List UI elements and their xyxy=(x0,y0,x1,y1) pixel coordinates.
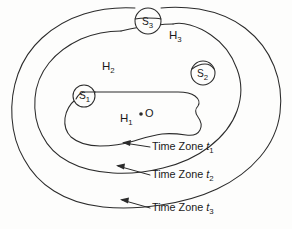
region-label-h3-sub: 3 xyxy=(177,35,181,44)
annotation-prefix-t2: Time Zone xyxy=(152,168,206,180)
annotation-label-t3: Time Zone t3 xyxy=(152,201,214,216)
region-label-h1-base: H xyxy=(120,112,128,124)
region-label-h1: H1 xyxy=(120,112,133,127)
region-label-h2: H2 xyxy=(102,60,115,75)
region-label-h2-base: H xyxy=(102,60,110,72)
center-point-dot xyxy=(139,112,143,116)
annotation-sub-t2: 2 xyxy=(209,174,213,183)
annotation-label-t2: Time Zone t2 xyxy=(152,168,214,183)
arrow-head-t3 xyxy=(120,198,129,204)
diagram-canvas: H1 H2 H3 S1 S2 S3 O Time Zone t1 Time Zo… xyxy=(0,0,292,229)
time-zone-diagram: H1 H2 H3 S1 S2 S3 O Time Zone t1 Time Zo… xyxy=(0,0,292,229)
annotation-prefix-t3: Time Zone xyxy=(152,201,206,213)
annotation-label-t1: Time Zone t1 xyxy=(152,140,214,155)
center-point-label: O xyxy=(145,107,154,119)
region-label-h3-base: H xyxy=(169,29,177,41)
annotation-sub-t3: 3 xyxy=(209,207,213,216)
region-label-h3: H3 xyxy=(169,29,182,44)
arrow-head-t1 xyxy=(122,140,131,146)
sphere-label-s2-sub: 2 xyxy=(204,73,208,82)
annotation-prefix-t1: Time Zone xyxy=(152,140,206,152)
sphere-label-s1-sub: 1 xyxy=(86,95,90,104)
region-label-h2-sub: 2 xyxy=(110,66,114,75)
region-label-h1-sub: 1 xyxy=(128,118,132,127)
annotation-sub-t1: 1 xyxy=(209,146,213,155)
arrow-head-t2 xyxy=(116,164,125,170)
sphere-label-s3-sub: 3 xyxy=(149,21,153,30)
